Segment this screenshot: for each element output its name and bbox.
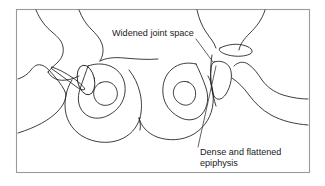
figure-container: Widened joint space Dense and flattened … (0, 0, 325, 186)
label-dense-flattened-epiphysis-line2: epiphysis (200, 158, 238, 168)
label-widened-joint-space: Widened joint space (112, 28, 194, 38)
label-dense-flattened-epiphysis-line1: Dense and flattened (200, 147, 281, 157)
pelvis-line-drawing: Widened joint space Dense and flattened … (0, 0, 325, 186)
